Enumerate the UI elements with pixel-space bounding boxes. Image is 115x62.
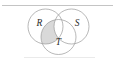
set-label-r: R: [36, 18, 43, 28]
venn-diagram-canvas: R S T: [0, 0, 115, 62]
venn-diagram-figure: R S T: [0, 0, 115, 62]
set-label-t: T: [56, 37, 62, 47]
set-label-s: S: [75, 18, 80, 28]
shaded-region-r-and-t: [0, 0, 115, 62]
shaded-region-group: [0, 0, 115, 62]
